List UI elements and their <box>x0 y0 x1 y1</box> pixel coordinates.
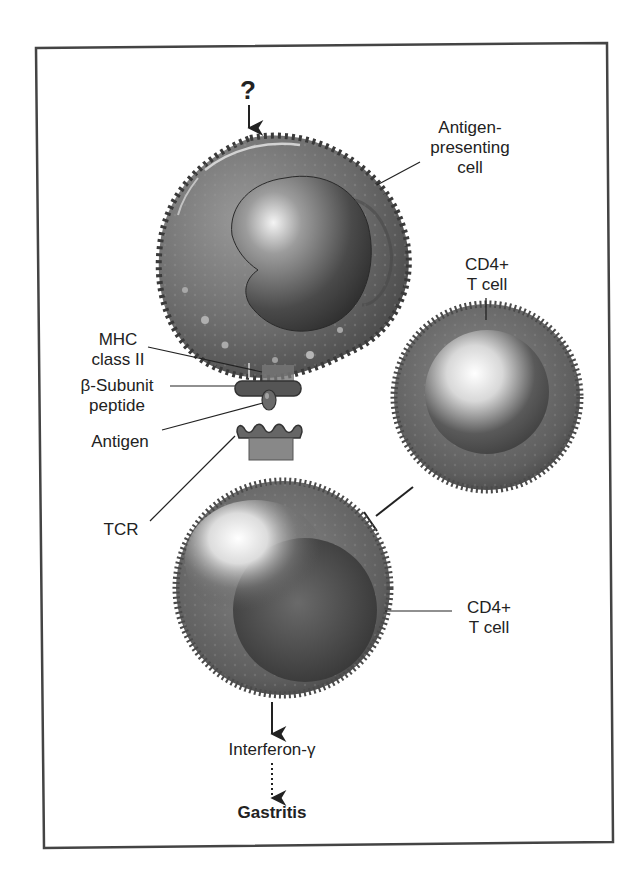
apc-label-line-3: cell <box>415 158 525 178</box>
antigen-presenting-cell <box>159 136 409 378</box>
figure: ? Antigen- presenting cell CD4+ T cell M… <box>0 0 640 894</box>
cd4-t-cell-bottom <box>176 481 390 695</box>
apc-label: Antigen- presenting cell <box>415 118 525 178</box>
mhc-label-line-2: class II <box>78 350 158 370</box>
cd4-bottom-label: CD4+ T cell <box>454 598 524 638</box>
interferon-label: Interferon-γ <box>212 740 332 760</box>
tcr-label: TCR <box>96 520 146 540</box>
apc-label-line-2: presenting <box>415 138 525 158</box>
antigen-particle <box>262 390 276 410</box>
antigen-label: Antigen <box>80 432 160 452</box>
unknown-trigger-label: ? <box>240 76 256 104</box>
mhc-label: MHC class II <box>78 330 158 370</box>
mhc-label-line-1: MHC <box>78 330 158 350</box>
antigen-leader-line <box>162 403 263 430</box>
cd4-bottom-label-line-2: T cell <box>454 618 524 638</box>
peptide-label-line-2: peptide <box>64 396 170 416</box>
peptide-label-line-1: β-Subunit <box>64 376 170 396</box>
inhibition-symbol <box>364 487 413 531</box>
cd4-right-label: CD4+ T cell <box>452 255 522 295</box>
gastritis-label: Gastritis <box>222 803 322 823</box>
cd4-t-cell-right <box>394 304 580 490</box>
apc-leader-line <box>377 162 420 185</box>
peptide-label: β-Subunit peptide <box>64 376 170 416</box>
cd4-right-label-line-1: CD4+ <box>452 255 522 275</box>
apc-label-line-1: Antigen- <box>415 118 525 138</box>
cd4-bottom-label-line-1: CD4+ <box>454 598 524 618</box>
cd4-right-label-line-2: T cell <box>452 275 522 295</box>
tcr-complex <box>237 424 302 460</box>
